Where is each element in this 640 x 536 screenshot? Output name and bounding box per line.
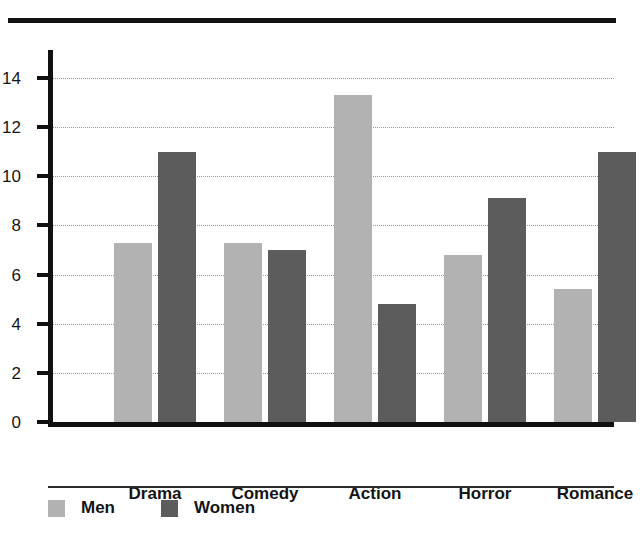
legend-swatch-men [48, 500, 65, 517]
bar-women-horror [488, 198, 526, 422]
y-axis-tick-label: 14 [2, 70, 21, 87]
legend-label-women: Women [194, 498, 255, 518]
bar-group [107, 50, 203, 422]
y-axis-tick-label: 8 [12, 217, 21, 234]
y-axis-tick-mark: 4 [37, 322, 48, 326]
legend-divider-rule [48, 486, 614, 488]
legend-item-men[interactable]: Men [48, 498, 115, 518]
y-axis-tick-label: 2 [12, 364, 21, 381]
y-axis-tick-label: 10 [2, 168, 21, 185]
bar-men-drama [114, 243, 152, 422]
x-axis-line [48, 422, 614, 427]
y-axis-tick-mark: 10 [37, 174, 48, 178]
top-divider-rule [8, 18, 616, 23]
bar-women-drama [158, 152, 196, 422]
y-axis-line [48, 50, 53, 427]
legend-item-women[interactable]: Women [161, 498, 255, 518]
y-axis-tick-label: 6 [12, 266, 21, 283]
bar-women-romance [598, 152, 636, 422]
chart-legend: MenWomen [48, 498, 255, 518]
bar-group [547, 50, 640, 422]
y-axis-tick-mark: 14 [37, 76, 48, 80]
bar-women-comedy [268, 250, 306, 422]
legend-label-men: Men [81, 498, 115, 518]
y-axis-tick-mark: 6 [37, 273, 48, 277]
y-axis-tick-label: 0 [12, 414, 21, 431]
bar-men-comedy [224, 243, 262, 422]
y-axis-tick-mark: 8 [37, 223, 48, 227]
bar-group [327, 50, 423, 422]
plot-area: 02468101214 [48, 50, 614, 427]
y-axis-tick-label: 4 [12, 315, 21, 332]
bar-men-action [334, 95, 372, 422]
bar-group [437, 50, 533, 422]
y-axis-tick-mark: 12 [37, 125, 48, 129]
y-axis-tick-mark: 2 [37, 371, 48, 375]
bar-women-action [378, 304, 416, 422]
bar-men-romance [554, 289, 592, 422]
bar-men-horror [444, 255, 482, 422]
y-axis-tick-label: 12 [2, 119, 21, 136]
legend-swatch-women [161, 500, 178, 517]
y-axis-tick-mark: 0 [37, 420, 48, 424]
bar-group [217, 50, 313, 422]
bar-chart: 02468101214 DramaComedyActionHorrorRoman… [0, 40, 624, 440]
